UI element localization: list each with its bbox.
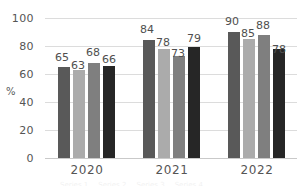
bar-2022-series-4 (273, 49, 285, 158)
bar-2022-series-1 (228, 32, 240, 158)
legend-item-2: Series 2 (98, 181, 126, 186)
data-label-2022-series-2: 85 (241, 27, 255, 40)
bar-2020-series-3 (88, 63, 100, 158)
data-label-2020-series-4: 66 (102, 53, 116, 66)
bar-2021-series-4 (188, 47, 200, 158)
legend-item-3: Series 3 (136, 181, 164, 186)
bar-2020-series-2 (73, 70, 85, 158)
x-category-label-2021: 2021 (143, 163, 201, 177)
bar-2022-series-2 (243, 39, 255, 158)
data-label-2021-series-1: 84 (140, 23, 154, 36)
legend-item-4: Series 4 (175, 181, 203, 186)
data-label-2021-series-4: 79 (187, 32, 201, 45)
data-label-2022-series-4: 78 (272, 43, 286, 56)
data-label-2020-series-2: 63 (71, 59, 85, 72)
bar-2021-series-2 (158, 49, 170, 158)
legend-cropped: Series 1Series 2Series 3Series 4 (60, 181, 250, 186)
bar-2022-series-3 (258, 35, 270, 158)
y-tick-label-20: 20 (4, 124, 34, 137)
bar-2021-series-1 (143, 40, 155, 158)
x-category-label-2020: 2020 (58, 163, 116, 177)
data-label-2021-series-2: 78 (156, 36, 170, 49)
data-label-2020-series-3: 68 (86, 46, 100, 59)
bar-2020-series-1 (58, 67, 70, 158)
y-tick-label-60: 60 (4, 68, 34, 81)
y-tick-label-0: 0 (4, 152, 34, 165)
data-label-2022-series-1: 90 (225, 15, 239, 28)
y-tick-label-40: 40 (4, 96, 34, 109)
y-tick-label-80: 80 (4, 40, 34, 53)
bar-2021-series-3 (173, 56, 185, 158)
x-axis-line (45, 158, 297, 159)
data-label-2021-series-3: 73 (171, 47, 185, 60)
data-label-2022-series-3: 88 (256, 19, 270, 32)
x-category-label-2022: 2022 (228, 163, 286, 177)
legend-item-1: Series 1 (60, 181, 88, 186)
data-label-2020-series-1: 65 (55, 51, 69, 64)
plot-area (45, 18, 297, 158)
y-tick-label-100: 100 (4, 12, 34, 25)
bar-chart: % 100 80 60 40 20 0 65636866847873799085… (0, 0, 304, 186)
bar-2020-series-4 (103, 66, 115, 158)
